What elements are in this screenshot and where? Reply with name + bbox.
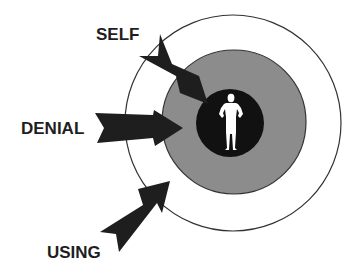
- using-arrow: [100, 181, 170, 252]
- label-denial: DENIAL: [21, 119, 84, 138]
- label-self: SELF: [96, 25, 139, 44]
- concentric-target-diagram: SELF DENIAL USING: [0, 0, 356, 276]
- label-using: USING: [47, 243, 101, 262]
